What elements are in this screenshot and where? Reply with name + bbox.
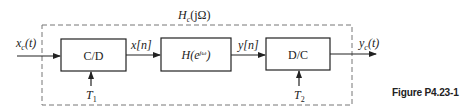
cd-converter-label: C/D	[83, 49, 103, 63]
xn-label: x[n]	[130, 38, 152, 52]
output-signal-label: yc(t)	[358, 36, 379, 52]
t2-label: T2	[294, 88, 305, 104]
input-signal-label: xc(t)	[15, 36, 36, 52]
discrete-filter-label: H(ejω)	[181, 48, 211, 62]
system-label: Hc(jΩ)	[177, 8, 210, 24]
dc-converter-label: D/C	[288, 48, 308, 62]
yn-label: y[n]	[237, 38, 259, 52]
t1-label: T1	[86, 88, 97, 104]
figure-caption: Figure P4.23-1	[392, 86, 459, 98]
